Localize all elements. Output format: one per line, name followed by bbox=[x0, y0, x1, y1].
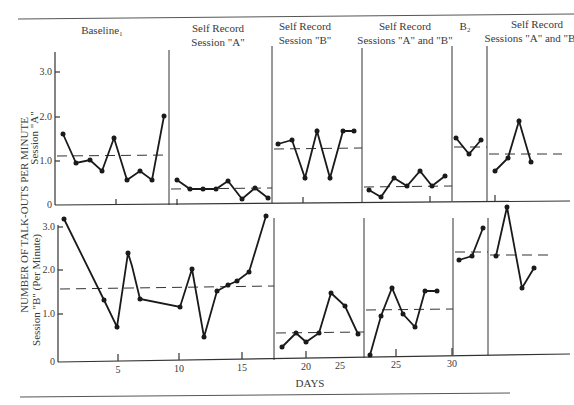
phase-label-self-record-a-line1: Self Record bbox=[192, 22, 245, 34]
top-tick-1: 1.0 bbox=[40, 155, 53, 166]
x-tick-30: 30 bbox=[447, 358, 457, 369]
x-tick-10: 10 bbox=[174, 363, 184, 374]
x-axis-label: DAYS bbox=[296, 377, 325, 389]
bottom-tick-0: 0 bbox=[50, 356, 55, 367]
y-axis-top-label: Session "A" bbox=[28, 111, 40, 164]
x-tick-20: 20 bbox=[301, 361, 311, 372]
bottom-panel-axes bbox=[58, 218, 570, 362]
phase-label-self-record-ab2-line2: Sessions "A" and "B bbox=[485, 32, 574, 44]
phase-label-self-record-ab-line1: Self Record bbox=[379, 20, 432, 32]
single-subject-chart: Baseline₁ Self Record Session "A" Self R… bbox=[0, 0, 574, 405]
top-rule bbox=[18, 14, 574, 19]
x-tick-5: 5 bbox=[116, 364, 121, 375]
y-axis-bottom-label: Session "B" (Per Minute) bbox=[30, 234, 43, 346]
phase-headers: Baseline₁ Self Record Session "A" Self R… bbox=[81, 18, 574, 48]
phase-label-self-record-ab2-line1: Self Record bbox=[511, 18, 564, 30]
bottom-tick-1: 1.0 bbox=[43, 308, 56, 319]
top-series-points bbox=[61, 114, 534, 202]
bottom-tick-3: 3.0 bbox=[43, 221, 56, 232]
phase-label-self-record-b-line2: Session "B" bbox=[279, 34, 332, 46]
phase-label-self-record-b-line1: Self Record bbox=[279, 20, 332, 32]
top-tick-2: 2.0 bbox=[40, 111, 53, 122]
x-tick-25a: 25 bbox=[335, 360, 345, 371]
phase-label-self-record-a-line2: Session "A" bbox=[191, 36, 244, 48]
bottom-rule bbox=[20, 393, 510, 397]
top-y-ticks: 0 1.0 2.0 3.0 bbox=[40, 66, 53, 210]
phase-label-self-record-ab-line2: Sessions "A" and "B" bbox=[357, 34, 452, 46]
top-tick-3: 3.0 bbox=[40, 66, 53, 77]
bottom-tick-2: 2.0 bbox=[43, 264, 56, 275]
phase-label-b2: B₂ bbox=[459, 20, 470, 32]
x-tick-25b: 25 bbox=[391, 359, 401, 370]
top-mean-lines bbox=[57, 147, 562, 189]
top-panel-axes bbox=[55, 46, 570, 205]
top-series-lines bbox=[63, 116, 531, 199]
top-tick-0: 0 bbox=[47, 199, 52, 210]
bottom-y-ticks: 0 1.0 2.0 3.0 bbox=[43, 221, 56, 367]
phase-label-baseline: Baseline₁ bbox=[81, 24, 123, 36]
bottom-mean-lines bbox=[60, 252, 550, 333]
x-tick-15: 15 bbox=[237, 362, 247, 373]
